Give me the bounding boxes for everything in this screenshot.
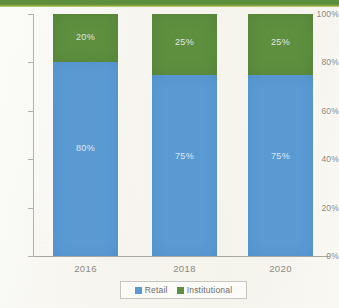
y-axis-tick (28, 159, 34, 160)
y-axis-tick (28, 14, 34, 15)
y-axis-tick-label: 80% (312, 58, 339, 67)
y-axis-tick-label: 20% (312, 203, 339, 212)
y-axis-line (33, 14, 34, 257)
y-axis-tick-label: 40% (312, 155, 339, 164)
y-axis-tick-label: 60% (312, 107, 339, 116)
stacked-bar-chart: 0%20%40%60%80%100% 20%80%25%75%25%75% 20… (0, 7, 339, 308)
page-top-decorative-band (0, 0, 339, 7)
y-axis-tick (28, 256, 34, 257)
bar-2016[interactable]: 20%80% (53, 14, 118, 256)
bar-segment-retail-2016[interactable]: 80% (53, 62, 118, 256)
bar-2020[interactable]: 25%75% (248, 14, 313, 256)
y-axis-tick (28, 62, 34, 63)
legend-swatch-icon (135, 287, 142, 294)
bar-segment-value-label: 80% (53, 143, 118, 153)
x-axis-label-2018: 2018 (152, 263, 217, 274)
legend-label: Retail (145, 285, 168, 295)
bar-segment-value-label: 25% (152, 37, 217, 47)
bar-segment-value-label: 75% (248, 151, 313, 161)
bar-segment-institutional-2020[interactable]: 25% (248, 14, 313, 75)
legend-label: Institutional (187, 285, 233, 295)
bar-segment-institutional-2018[interactable]: 25% (152, 14, 217, 75)
bar-segment-value-label: 20% (53, 32, 118, 42)
x-axis-line (33, 256, 330, 257)
y-axis-tick (28, 111, 34, 112)
bar-segment-value-label: 25% (248, 37, 313, 47)
bar-segment-institutional-2016[interactable]: 20% (53, 14, 118, 62)
y-axis-tick-label: 100% (312, 10, 339, 19)
chart-legend: RetailInstitutional (120, 281, 247, 299)
y-axis-tick (28, 208, 34, 209)
x-axis-label-2020: 2020 (248, 263, 313, 274)
x-axis-label-2016: 2016 (53, 263, 118, 274)
bar-segment-retail-2018[interactable]: 75% (152, 75, 217, 257)
legend-swatch-icon (177, 287, 184, 294)
bar-2018[interactable]: 25%75% (152, 14, 217, 256)
legend-item-institutional[interactable]: Institutional (177, 285, 233, 295)
bar-segment-value-label: 75% (152, 151, 217, 161)
legend-item-retail[interactable]: Retail (135, 285, 168, 295)
y-axis-tick-label: 0% (312, 252, 339, 261)
bar-segment-retail-2020[interactable]: 75% (248, 75, 313, 257)
